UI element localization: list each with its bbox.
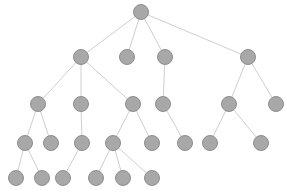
tree-nodes <box>9 5 284 186</box>
tree-edge <box>141 12 248 57</box>
tree-node <box>116 171 131 186</box>
tree-node <box>222 97 237 112</box>
tree-node <box>145 171 160 186</box>
tree-edge <box>248 57 276 104</box>
tree-node <box>120 50 135 65</box>
tree-edge <box>81 12 141 57</box>
tree-node <box>74 50 89 65</box>
tree-node <box>44 136 59 151</box>
tree-root-node <box>134 5 149 20</box>
tree-node <box>241 50 256 65</box>
tree-node <box>158 50 173 65</box>
tree-node <box>75 136 90 151</box>
tree-node <box>156 97 171 112</box>
tree-node <box>35 171 50 186</box>
tree-node <box>106 136 121 151</box>
tree-node <box>145 136 160 151</box>
tree-node <box>254 136 269 151</box>
tree-node <box>18 136 33 151</box>
tree-node <box>74 97 89 112</box>
tree-diagram <box>0 0 287 196</box>
tree-edge <box>38 57 81 104</box>
tree-node <box>56 171 71 186</box>
tree-node <box>178 136 193 151</box>
tree-edges <box>16 12 276 178</box>
tree-node <box>31 97 46 112</box>
tree-node <box>126 97 141 112</box>
tree-node <box>203 136 218 151</box>
tree-node <box>269 97 284 112</box>
tree-node <box>9 171 24 186</box>
tree-node <box>89 171 104 186</box>
